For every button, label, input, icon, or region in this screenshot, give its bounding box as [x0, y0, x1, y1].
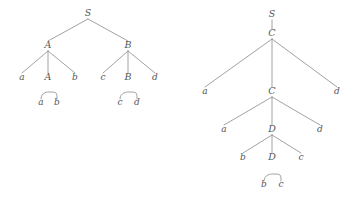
node-label-l3: a: [19, 72, 24, 82]
node-label-r10: c: [298, 152, 303, 162]
edge-C-to-d: [272, 97, 320, 125]
node-label-l1: A: [44, 39, 52, 50]
edge-S-to-B: [88, 19, 128, 41]
node-label-r4: d: [334, 86, 340, 96]
edge-A-to-a: [22, 51, 48, 73]
edge-S-to-A: [48, 19, 88, 41]
node-label-r9: D: [267, 151, 276, 162]
edge-D-to-c: [272, 135, 301, 153]
edge-B-to-c: [103, 51, 128, 73]
node-label-l7: B: [124, 71, 132, 82]
parse-tree-figure: SABaAbcBdabcdSCaCdaDdbDcbc: [0, 0, 360, 203]
arcs-layer: [41, 92, 281, 181]
node-label-l0: S: [85, 7, 92, 18]
node-label-r11: b: [261, 179, 267, 189]
node-label-r8: b: [240, 152, 246, 162]
node-label-l10: b: [54, 97, 60, 107]
node-label-r0: S: [269, 8, 276, 19]
node-label-l4: A: [44, 71, 52, 82]
node-label-l2: B: [124, 39, 132, 50]
node-labels-layer: SABaAbcBdabcdSCaCdaDdbDcbc: [19, 7, 340, 189]
node-label-l8: d: [152, 72, 158, 82]
node-label-r5: a: [221, 124, 226, 134]
tree-diagram-canvas: SABaAbcBdabcdSCaCdaDdbDcbc: [0, 0, 360, 203]
edges-layer: [22, 19, 337, 153]
node-label-r6: D: [267, 123, 276, 134]
node-label-r12: c: [278, 179, 283, 189]
node-label-r1: C: [268, 27, 276, 38]
node-label-r3: C: [268, 85, 276, 96]
edge-C-to-a: [224, 97, 272, 125]
node-label-l6: c: [100, 72, 105, 82]
node-label-l12: d: [134, 97, 140, 107]
edge-A-to-b: [48, 51, 75, 73]
node-label-r7: d: [317, 124, 323, 134]
edge-C-to-d: [272, 39, 337, 87]
node-label-r2: a: [202, 86, 207, 96]
edge-C-to-a: [205, 39, 272, 87]
node-label-l11: c: [117, 97, 122, 107]
edge-B-to-d: [128, 51, 155, 73]
node-label-l5: b: [72, 72, 78, 82]
node-label-l9: a: [38, 97, 43, 107]
